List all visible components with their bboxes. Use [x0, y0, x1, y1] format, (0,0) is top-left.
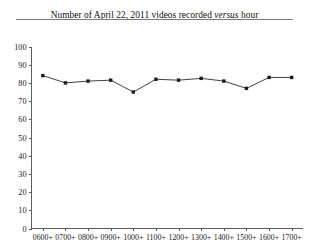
data-point-marker: 0900+: 81.5	[109, 78, 112, 81]
data-point-marker: 1600+: 83	[267, 76, 270, 79]
y-tick-label: 10	[18, 206, 26, 215]
y-tick-label: 50	[18, 134, 26, 143]
title-divider	[16, 19, 293, 20]
x-tick-label: 0800+	[78, 233, 99, 242]
data-point-marker: 1300+: 82.5	[199, 77, 202, 80]
x-tick-label: 0900+	[101, 233, 122, 242]
data-point-marker: 0800+: 81	[86, 79, 89, 82]
x-axis: 0600+0700+0800+0900+1000+1100+1200+1300+…	[32, 229, 304, 242]
data-point-marker: 0700+: 80	[64, 81, 67, 84]
x-tick-label: 1100+	[146, 233, 166, 242]
x-tick-label: 1500+	[236, 233, 257, 242]
data-point-marker: 1400+: 81	[222, 79, 225, 82]
y-axis-ticks: 0102030405060708090100	[14, 43, 31, 234]
y-tick-label: 60	[18, 115, 26, 124]
data-point-marker: 1500+: 77	[245, 87, 248, 90]
line-chart-plot: 0102030405060708090100 0600+0700+0800+09…	[0, 22, 309, 251]
data-point-marker: 1000+: 75	[132, 90, 135, 93]
data-point-marker: 0600+: 84	[41, 74, 44, 77]
y-tick-label: 20	[18, 188, 26, 197]
x-axis-ticks: 0600+0700+0800+0900+1000+1100+1200+1300+…	[33, 229, 303, 242]
x-tick-label: 1400+	[214, 233, 235, 242]
x-tick-label: 0700+	[55, 233, 76, 242]
x-tick-label: 0600+	[33, 233, 54, 242]
data-series: 0600+: 840700+: 800800+: 810900+: 81.510…	[41, 74, 293, 94]
y-tick-label: 90	[18, 61, 26, 70]
y-tick-label: 80	[18, 79, 26, 88]
series-line	[43, 76, 292, 92]
y-tick-label: 0	[22, 225, 26, 234]
y-axis: 0102030405060708090100	[14, 43, 31, 234]
y-tick-label: 40	[18, 152, 26, 161]
data-point-marker: 1100+: 82	[154, 78, 157, 81]
figure-container: Number of April 22, 2011 videos recorded…	[0, 0, 309, 251]
x-tick-label: 1200+	[168, 233, 189, 242]
x-tick-label: 1700+	[282, 233, 303, 242]
data-point-marker: 1200+: 81.5	[177, 78, 180, 81]
y-tick-label: 70	[18, 97, 26, 106]
y-tick-label: 100	[14, 43, 26, 52]
x-tick-label: 1300+	[191, 233, 212, 242]
data-point-marker: 1700+: 83	[290, 76, 293, 79]
x-tick-label: 1000+	[123, 233, 144, 242]
x-tick-label: 1600+	[259, 233, 280, 242]
y-tick-label: 30	[18, 170, 26, 179]
